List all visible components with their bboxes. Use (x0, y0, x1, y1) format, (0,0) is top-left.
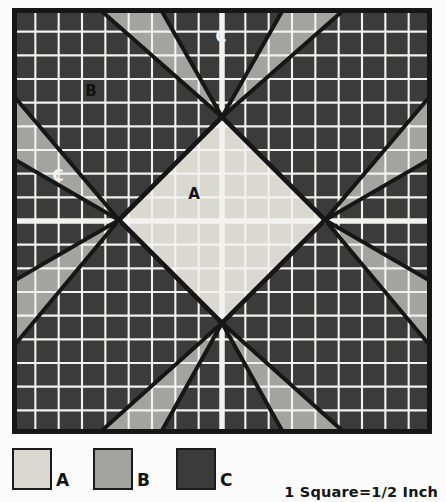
legend-label-a: A (56, 472, 69, 490)
legend: A B C 1 Square=1/2 Inch (0, 444, 446, 502)
legend-swatch-a (12, 448, 52, 490)
legend-label-b: B (137, 472, 150, 490)
region-label-c-2: C (52, 167, 63, 185)
legend-swatch-b (93, 448, 133, 490)
scale-note: 1 Square=1/2 Inch (284, 484, 438, 500)
legend-label-c: C (220, 472, 232, 490)
quilt-block-svg: CBCA (0, 0, 446, 446)
region-label-a-3: A (188, 185, 200, 203)
legend-item-b: B (93, 448, 150, 490)
legend-item-c: C (176, 448, 232, 490)
legend-swatch-c (176, 448, 216, 490)
region-label-c-0: C (215, 28, 226, 46)
quilt-block-diagram: CBCA (0, 0, 446, 446)
legend-item-a: A (12, 448, 69, 490)
region-label-b-1: B (85, 82, 96, 100)
